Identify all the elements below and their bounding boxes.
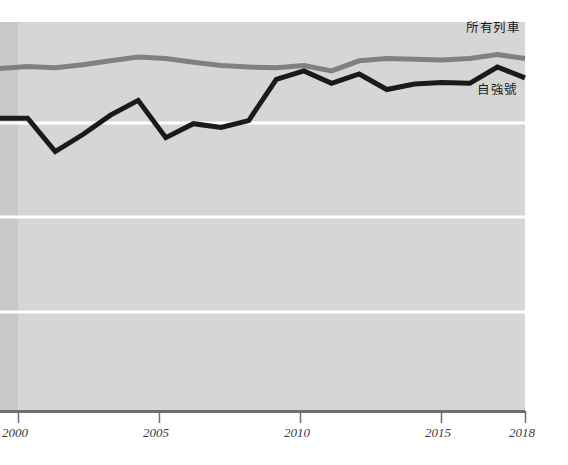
line-chart: 所有列車 自強號 20002005201020152018: [0, 0, 568, 465]
series-label-all-trains: 所有列車: [466, 22, 520, 35]
x-axis-tick-label: 2018: [509, 425, 535, 441]
x-axis-tick-label: 2005: [143, 425, 169, 441]
x-axis-tick-label: 2015: [425, 425, 451, 441]
x-axis-tick-label: 2010: [284, 425, 310, 441]
chart-canvas: [0, 0, 568, 465]
series-label-tze-chiang: 自強號: [477, 84, 518, 97]
x-axis-tick-label: 2000: [2, 425, 28, 441]
